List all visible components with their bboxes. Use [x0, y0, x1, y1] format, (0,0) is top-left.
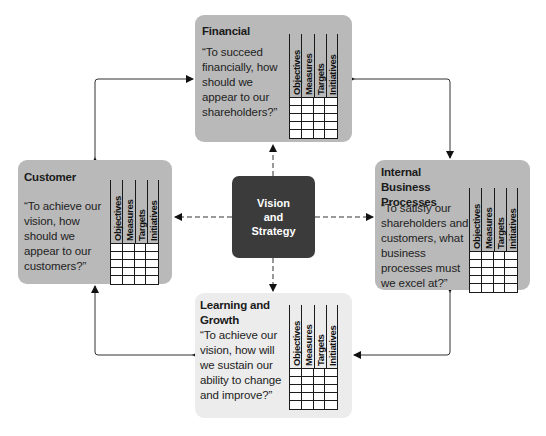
- perspective-title: Customer: [24, 170, 114, 185]
- perspective-internal-business-processes: Internal Business Processes “To satisfy …: [375, 160, 530, 290]
- grid-header-objectives: Objectives: [290, 50, 301, 95]
- grid-body: [289, 97, 338, 139]
- arrow-customer-financial: [95, 79, 193, 158]
- perspective-customer: Customer “To achieve our vision, how sho…: [18, 160, 172, 284]
- perspective-question: “To succeed financially, how should we a…: [202, 45, 288, 120]
- grid-header-targets: Targets: [315, 63, 326, 95]
- grid-header-measures: Measures: [302, 54, 313, 95]
- grid-header-targets: Targets: [315, 334, 326, 366]
- scorecard-grid: Objectives Measures Targets Initiatives: [110, 180, 159, 285]
- grid-header-targets: Targets: [136, 209, 147, 241]
- scorecard-grid: Objectives Measures Targets Initiatives: [289, 305, 338, 410]
- center-label: Vision and Strategy: [251, 196, 295, 238]
- grid-header-measures: Measures: [482, 208, 493, 249]
- grid-header-initiatives: Initiatives: [506, 208, 517, 249]
- grid-header-initiatives: Initiatives: [147, 200, 158, 241]
- grid-header-targets: Targets: [495, 217, 506, 249]
- grid-header-measures: Measures: [302, 325, 313, 366]
- perspective-question: “To satisfy our shareholders and custome…: [381, 201, 469, 291]
- perspective-title: Financial: [202, 24, 292, 39]
- grid-header-objectives: Objectives: [470, 204, 481, 249]
- perspective-question: “To achieve our vision, how will we sust…: [200, 328, 288, 403]
- perspective-title: Learning and Growth: [200, 298, 280, 328]
- grid-body: [110, 243, 159, 285]
- perspective-question: “To achieve our vision, how should we ap…: [24, 199, 110, 274]
- grid-header-objectives: Objectives: [290, 321, 301, 366]
- grid-header-initiatives: Initiatives: [326, 54, 337, 95]
- scorecard-grid: Objectives Measures Targets Initiatives: [469, 188, 518, 293]
- perspective-financial: Financial “To succeed financially, how s…: [195, 15, 352, 142]
- grid-header-measures: Measures: [123, 200, 134, 241]
- grid-header-objectives: Objectives: [111, 196, 122, 241]
- perspective-learning-and-growth: Learning and Growth “To achieve our visi…: [195, 293, 352, 418]
- grid-body: [289, 368, 338, 410]
- arrow-internal-learning: [354, 292, 450, 355]
- arrow-learning-customer: [95, 286, 193, 355]
- grid-body: [469, 251, 518, 293]
- vision-and-strategy-box: Vision and Strategy: [232, 176, 315, 258]
- grid-header-initiatives: Initiatives: [326, 325, 337, 366]
- scorecard-grid: Objectives Measures Targets Initiatives: [289, 34, 338, 139]
- arrow-financial-internal: [354, 79, 450, 158]
